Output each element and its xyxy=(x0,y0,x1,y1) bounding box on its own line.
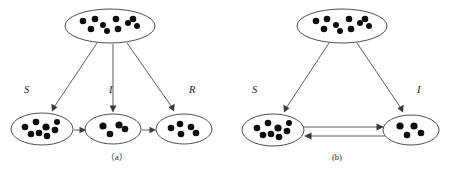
individual-dot xyxy=(33,119,40,126)
arrow-s-to-i-a xyxy=(74,127,86,133)
compartment-s-a-label: S xyxy=(24,84,30,95)
compartment-i-b xyxy=(383,115,439,145)
arrow-i-to-s-b xyxy=(304,132,385,139)
panel-b: S I (b) xyxy=(242,9,439,162)
individual-dot xyxy=(88,26,95,33)
individual-dot xyxy=(168,125,175,132)
individual-dot xyxy=(268,131,275,138)
compartment-i-a-label: I xyxy=(108,84,113,95)
individual-dot xyxy=(115,121,122,128)
compartment-i-a xyxy=(85,114,141,144)
panel-a: S I xyxy=(11,9,212,162)
individual-dot xyxy=(178,131,185,138)
compartment-r-a-label: R xyxy=(188,84,196,95)
compartment-s-b-label: S xyxy=(252,84,258,95)
arrow-pool-to-i-b-head xyxy=(398,105,404,113)
individual-dot xyxy=(22,124,29,131)
individual-dot xyxy=(125,20,131,26)
arrow-pool-to-r-a-shaft xyxy=(127,43,173,108)
individual-dot xyxy=(52,127,59,134)
arrow-pool-to-i-a xyxy=(110,44,117,113)
individual-dot xyxy=(346,16,353,23)
individual-dot xyxy=(337,28,343,34)
individual-dot xyxy=(113,16,120,23)
individual-dot xyxy=(130,16,137,23)
individual-dot xyxy=(265,120,272,127)
arrow-pool-to-s-b-shaft xyxy=(286,43,330,109)
individual-dot xyxy=(366,23,372,29)
panel-a-caption: （a） xyxy=(106,152,128,162)
arrow-pool-to-s-b xyxy=(283,43,329,113)
individual-dot xyxy=(396,122,403,129)
individual-dot xyxy=(348,26,355,33)
individual-dot xyxy=(404,132,411,139)
panel-b-caption: (b) xyxy=(332,152,342,162)
population-pool-b-outline xyxy=(297,9,387,43)
individual-dot xyxy=(188,124,195,131)
individual-dot xyxy=(177,121,184,128)
arrow-s-to-i-b xyxy=(303,123,384,130)
individual-dot xyxy=(28,131,35,138)
individual-dot xyxy=(54,119,60,125)
individual-dot xyxy=(254,125,261,132)
individual-dot xyxy=(357,20,363,26)
individual-dot xyxy=(410,122,417,129)
figure-container: S I xyxy=(0,0,453,171)
arrow-pool-to-i-a-head xyxy=(110,106,117,113)
individual-dot xyxy=(80,18,87,25)
individual-dot xyxy=(313,18,320,25)
individual-dot xyxy=(36,130,43,137)
individual-dot xyxy=(122,126,129,133)
arrow-i-to-s-b-head xyxy=(304,132,312,139)
population-pool-a-outline xyxy=(65,9,155,43)
arrow-pool-to-s-b-head xyxy=(283,105,289,113)
arrow-i-to-r-a xyxy=(142,127,156,133)
arrow-pool-to-i-b xyxy=(357,43,404,113)
individual-dot xyxy=(333,22,339,28)
compartment-s-b xyxy=(242,114,304,146)
population-pool-b xyxy=(297,9,387,43)
compartment-s-a-outline xyxy=(11,113,73,145)
compartment-r-a xyxy=(156,114,212,144)
individual-dot xyxy=(418,130,425,137)
individual-dot xyxy=(99,122,106,129)
individual-dot xyxy=(134,23,140,29)
individual-dot xyxy=(193,130,200,137)
individual-dot xyxy=(100,22,106,28)
compartment-r-a-outline xyxy=(156,114,212,144)
individual-dot xyxy=(44,133,51,140)
arrow-pool-to-s-a-head xyxy=(51,104,57,112)
compartmental-model-diagram: S I xyxy=(0,0,453,171)
compartment-s-b-outline xyxy=(242,114,304,146)
individual-dot xyxy=(321,26,328,33)
arrow-i-to-r-a-head xyxy=(150,127,157,133)
individual-dot xyxy=(104,28,110,34)
individual-dot xyxy=(284,128,291,135)
compartment-i-a-outline xyxy=(85,114,141,144)
compartment-i-b-label: I xyxy=(416,84,421,95)
individual-dot xyxy=(362,16,369,23)
compartment-i-b-outline xyxy=(383,115,439,145)
compartment-s-a xyxy=(11,113,73,145)
individual-dot xyxy=(115,26,122,33)
individual-dot xyxy=(92,16,99,23)
individual-dot xyxy=(260,132,267,139)
individual-dot xyxy=(107,131,114,138)
arrow-pool-to-i-b-shaft xyxy=(357,43,402,109)
individual-dot xyxy=(42,123,49,130)
population-pool-a xyxy=(65,9,155,43)
individual-dot xyxy=(324,16,331,23)
individual-dot xyxy=(286,120,292,126)
arrow-pool-to-s-a xyxy=(51,43,97,112)
arrow-pool-to-r-a xyxy=(127,43,175,112)
individual-dot xyxy=(274,124,281,131)
individual-dot xyxy=(276,134,283,141)
arrow-pool-to-r-a-head xyxy=(169,104,175,112)
arrow-pool-to-s-a-shaft xyxy=(54,43,98,108)
